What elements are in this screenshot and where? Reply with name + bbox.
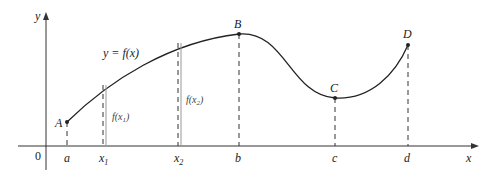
tick-x1: x1 xyxy=(98,151,108,167)
label-c: C xyxy=(330,81,339,95)
y-axis-arrow-icon xyxy=(43,12,49,20)
y-axis-label: y xyxy=(34,9,41,23)
label-d: D xyxy=(402,27,412,41)
point-b xyxy=(237,32,241,36)
origin-label: 0 xyxy=(35,149,41,163)
tick-d: d xyxy=(404,151,411,165)
label-b: B xyxy=(234,17,242,31)
curve-label: y = f(x) xyxy=(102,46,139,60)
x-axis-label: x xyxy=(465,151,472,165)
label-a: A xyxy=(54,116,63,130)
label-fx2: f(x2) xyxy=(186,94,204,107)
point-a xyxy=(65,120,69,124)
tick-x2: x2 xyxy=(173,151,183,167)
point-c xyxy=(333,96,337,100)
label-fx1: f(x1) xyxy=(112,111,130,124)
tick-a: a xyxy=(64,151,70,165)
function-graph: A B C D y x 0 a x1 x2 b c d y = f(x) f(x… xyxy=(0,0,485,173)
tick-c: c xyxy=(332,151,338,165)
point-d xyxy=(406,43,410,47)
x-axis-arrow-icon xyxy=(471,143,479,149)
tick-b: b xyxy=(235,151,241,165)
